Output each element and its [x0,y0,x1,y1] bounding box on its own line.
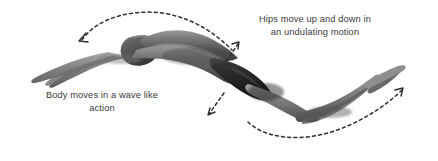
swimmer-feet [365,65,406,89]
caption-hips-undulating-motion: Hips move up and down in an undulating m… [244,13,386,39]
swimming-technique-figure: Hips move up and down in an undulating m… [0,0,438,161]
caption-body-wave-action: Body moves in a wave like action [28,89,176,115]
